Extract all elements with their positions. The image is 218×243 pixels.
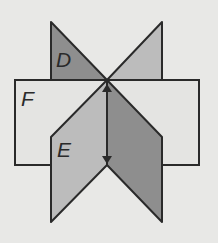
label-e: E [57,138,72,161]
intersecting-planes-diagram: D F E [0,0,218,243]
label-d: D [56,48,71,71]
plane-e-upper [107,22,162,80]
label-f: F [21,87,35,110]
